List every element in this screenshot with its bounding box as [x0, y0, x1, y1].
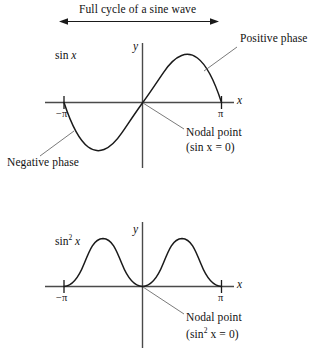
annotation-nodal-point-equation-bottom: (sin2 x = 0) — [186, 327, 239, 340]
tick-label-pi: π — [218, 293, 223, 304]
nodal-eq-tail: x = 0) — [211, 328, 239, 340]
y-axis-label: y — [133, 224, 138, 236]
sine-squared-function-label: sin2 x — [55, 234, 80, 247]
sine-function-label-prefix: sin — [55, 49, 68, 61]
leader-line-positive-phase — [204, 47, 237, 71]
full-cycle-arrow — [59, 18, 219, 24]
annotation-nodal-point-equation-top: (sin x = 0) — [186, 142, 235, 154]
tick-label-minus-pi: −π — [56, 293, 67, 304]
x-axis-label: x — [237, 279, 242, 291]
leader-line-negative-phase — [40, 131, 74, 156]
tick-label-minus-pi: −π — [56, 109, 67, 120]
sine-function-label: sin x — [55, 50, 76, 62]
annotation-nodal-point-bottom: Nodal point — [186, 312, 242, 324]
sine-squared-label-var: x — [75, 235, 80, 247]
annotation-nodal-point-top: Nodal point — [186, 127, 242, 139]
leader-line-nodal-point-bottom — [143, 287, 184, 314]
annotation-positive-phase: Positive phase — [240, 33, 308, 45]
x-axis-label: x — [237, 95, 242, 107]
tick-label-pi: π — [218, 109, 223, 120]
annotation-negative-phase: Negative phase — [7, 157, 79, 169]
figure-canvas — [0, 0, 323, 354]
sine-function-label-var: x — [71, 49, 76, 61]
leader-line-nodal-point-top — [143, 103, 184, 129]
full-cycle-caption: Full cycle of a sine wave — [79, 4, 196, 16]
nodal-eq-head: (sin — [186, 328, 204, 340]
sine-wave-figure: Full cycle of a sine wave sin x y x −π π… — [0, 0, 323, 354]
arrow-head-right — [210, 18, 219, 24]
sine-squared-label-prefix: sin — [55, 235, 68, 247]
y-axis-label: y — [133, 41, 138, 53]
arrow-head-left — [59, 18, 68, 24]
